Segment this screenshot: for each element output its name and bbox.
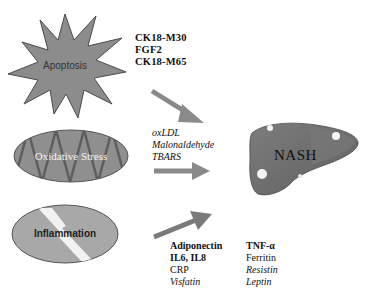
marker-resistin: Resistin	[246, 264, 278, 276]
arrow-inflammation-to-nash	[154, 211, 212, 237]
marker-ck18-m30: CK18-M30	[135, 32, 187, 44]
marker-ferritin: Ferritin	[246, 252, 278, 264]
inflammation-marker-list-1: Adiponectin IL6, IL8 CRP Visfatin	[170, 240, 222, 288]
apoptosis-label: Apoptosis	[30, 60, 100, 71]
apoptosis-marker-list: CK18-M30 FGF2 CK18-M65	[135, 32, 187, 68]
marker-crp: CRP	[170, 264, 222, 276]
marker-tbars: TBARS	[152, 151, 214, 163]
inflammation-marker-list-2: TNF-α Ferritin Resistin Leptin	[246, 240, 278, 288]
marker-il6-il8: IL6, IL8	[170, 252, 222, 264]
marker-tnf-alpha: TNF-α	[246, 240, 278, 252]
oxidative-stress-label: Oxidative Stress	[18, 150, 124, 162]
marker-visfatin: Visfatin	[170, 276, 222, 288]
oxidative-marker-list: oxLDL Malonaldehyde TBARS	[152, 127, 214, 163]
arrow-oxidative-to-nash	[154, 162, 210, 180]
arrow-apoptosis-to-nash	[152, 91, 204, 123]
marker-adiponectin: Adiponectin	[170, 240, 222, 252]
nash-label: NASH	[274, 147, 317, 164]
marker-leptin: Leptin	[246, 276, 278, 288]
inflammation-label: Inflammation	[20, 228, 110, 239]
marker-ck18-m65: CK18-M65	[135, 56, 187, 68]
marker-fgf2: FGF2	[135, 44, 187, 56]
marker-oxldl: oxLDL	[152, 127, 214, 139]
marker-malonaldehyde: Malonaldehyde	[152, 139, 214, 151]
